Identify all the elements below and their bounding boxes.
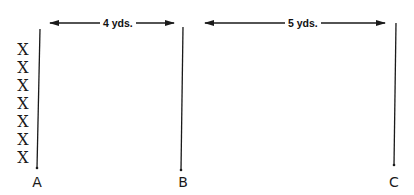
- diagram-lines: [0, 0, 414, 195]
- player-x: X: [16, 132, 30, 148]
- cone-label-c: C: [386, 174, 402, 190]
- player-x: X: [16, 60, 30, 76]
- line-a: [37, 29, 40, 168]
- drill-diagram: 4 yds. 5 yds. X X X X X X X A B C: [0, 0, 414, 195]
- line-c: [394, 23, 396, 165]
- distance-label-ab: 4 yds.: [100, 16, 136, 30]
- cone-label-b: B: [175, 174, 191, 190]
- cone-label-a: A: [29, 174, 45, 190]
- distance-label-bc: 5 yds.: [285, 16, 321, 30]
- player-x: X: [16, 114, 30, 130]
- player-x: X: [16, 42, 30, 58]
- player-x: X: [16, 150, 30, 166]
- player-x: X: [16, 78, 30, 94]
- line-b: [181, 27, 183, 170]
- player-x: X: [16, 96, 30, 112]
